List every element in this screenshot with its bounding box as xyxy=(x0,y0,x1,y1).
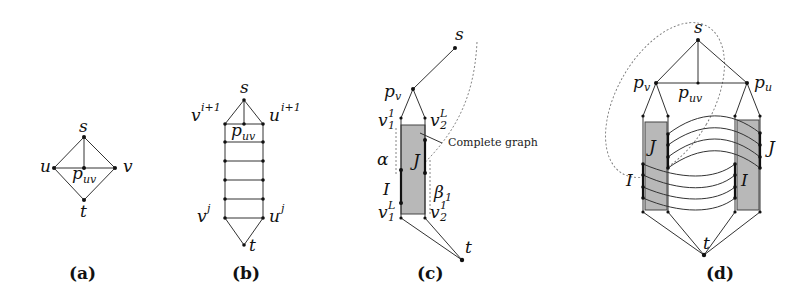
node-label-I-left: I xyxy=(625,170,633,190)
node-label-v2L-sub: 2 xyxy=(439,119,447,132)
caption-a: (a) xyxy=(69,263,96,283)
node-label-v11-sup: 1 xyxy=(388,107,395,120)
node-label-s: s xyxy=(240,77,249,97)
node-label-I: I xyxy=(382,179,390,199)
node-label-s: s xyxy=(79,116,88,136)
node-label-u-top-sup: i+1 xyxy=(281,101,301,114)
complete-graph-annotation: Complete graph xyxy=(448,136,538,149)
node-label-u-bot: u xyxy=(269,206,280,226)
node-label-v11-sub: 1 xyxy=(388,119,395,132)
node-label-alpha: α xyxy=(377,149,389,169)
node-label-v21-sup: 1 xyxy=(440,199,447,212)
node-label-puv-sub: uv xyxy=(689,92,703,105)
node-label-t: t xyxy=(249,235,256,255)
node-label-pv-sub: v xyxy=(644,81,651,94)
node-label-s: s xyxy=(455,24,464,44)
node-label-pu-sub: u xyxy=(765,81,772,94)
node-label-pv-sub: v xyxy=(395,90,402,103)
caption-b: (b) xyxy=(232,263,260,283)
node-label-v11: v xyxy=(378,110,388,130)
node-label-pu: p xyxy=(754,72,765,92)
node-label-puv: p xyxy=(678,82,689,102)
caption-d: (d) xyxy=(706,263,734,283)
node-label-t: t xyxy=(465,237,472,257)
panel-a: s u v p uv t (a) xyxy=(40,116,133,283)
node-label-I-right: I xyxy=(740,170,748,190)
caption-c: (c) xyxy=(417,263,443,283)
node-label-v-top: v xyxy=(191,105,201,125)
node-label-p: p xyxy=(72,163,83,183)
node-label-pv: p xyxy=(633,72,644,92)
node-label-v1L-sub: 1 xyxy=(388,211,395,224)
panel-b: s v i+1 u i+1 p uv v j u j t (b) xyxy=(191,77,301,283)
node-label-v-top-sup: i+1 xyxy=(201,101,221,114)
node-label-pv: p xyxy=(384,81,395,101)
node-label-p-sub: uv xyxy=(242,130,256,143)
figure-canvas: s u v p uv t (a) s v i+1 u i+1 p xyxy=(0,0,812,302)
node-label-v: v xyxy=(123,156,133,176)
node-label-v21-sub: 2 xyxy=(439,211,447,224)
panel-c: s p v v 1 1 v 2 L Complete graph α J I β… xyxy=(377,24,538,283)
node-label-v2L: v xyxy=(430,110,440,130)
node-label-p: p xyxy=(231,120,242,140)
node-label-t: t xyxy=(703,233,710,253)
node-label-u-top: u xyxy=(269,105,280,125)
node-label-t: t xyxy=(80,201,87,221)
node-label-J-right: J xyxy=(765,137,776,157)
node-label-v1L: v xyxy=(378,202,388,222)
node-label-v21: v xyxy=(430,202,440,222)
node-label-v1L-sup: L xyxy=(387,199,395,212)
panel-d: s p v p u p uv J I J I t (d) xyxy=(581,2,776,283)
node-label-u: u xyxy=(40,156,51,176)
node-label-v2L-sup: L xyxy=(439,107,447,120)
node-label-v-bot: v xyxy=(197,206,207,226)
node-label-s: s xyxy=(694,17,703,37)
node-label-p-sub: uv xyxy=(83,173,97,186)
